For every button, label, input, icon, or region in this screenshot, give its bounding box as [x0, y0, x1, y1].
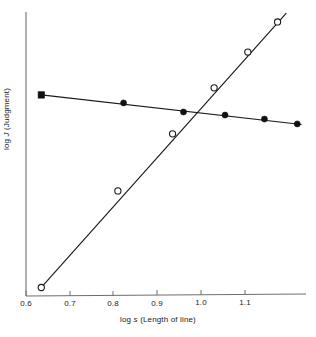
x-tick-label-5: 1.1 [239, 298, 250, 307]
y-axis-title-symbol: J [2, 132, 11, 136]
x-axis-line [26, 294, 306, 296]
data-point-open [274, 19, 280, 25]
x-axis-title: log s (Length of line) [0, 315, 316, 324]
y-axis-title-prefix: log [2, 139, 11, 150]
data-point-open [211, 85, 217, 91]
data-point-open [169, 131, 175, 137]
plot-area [0, 0, 316, 337]
data-point-filled [121, 100, 127, 106]
data-point-open [115, 188, 121, 194]
y-axis-title: log J (Judgment) [2, 30, 11, 150]
x-axis-title-suffix: (Length of line) [140, 315, 196, 324]
chart-figure: 0.6 0.7 0.8 0.9 1.0 1.1 log s (Length of… [0, 0, 316, 337]
data-point-filled [261, 116, 267, 122]
data-point-filled [222, 112, 228, 118]
data-point-filled [294, 121, 300, 127]
x-tick-label-3: 0.9 [151, 299, 162, 308]
x-tick-label-0: 0.6 [20, 299, 31, 308]
x-tick-label-2: 0.8 [107, 299, 118, 308]
data-point-open [38, 284, 44, 290]
x-axis-title-prefix: log [120, 315, 131, 324]
data-point-filled [181, 109, 187, 115]
x-axis-title-symbol: s [134, 315, 138, 324]
x-tick-label-4: 1.0 [195, 298, 206, 307]
data-point-filled [38, 92, 44, 98]
data-point-open [245, 49, 251, 55]
y-axis-title-suffix: (Judgment) [2, 88, 11, 130]
x-tick-label-1: 0.7 [64, 299, 75, 308]
